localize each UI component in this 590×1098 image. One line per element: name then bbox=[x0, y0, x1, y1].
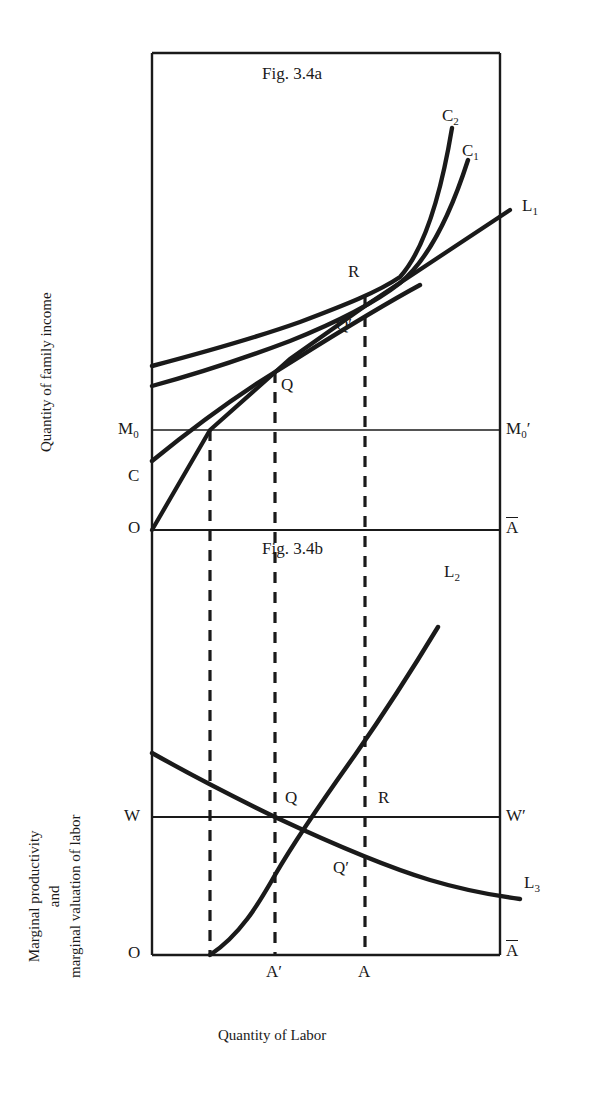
curve-label-c1-text: C bbox=[462, 141, 473, 160]
curve-c2 bbox=[152, 128, 452, 366]
y-axis-label-panel-a: Quantity of family income bbox=[38, 292, 55, 452]
point-label-q-prime-panel-a: Q′ bbox=[336, 315, 352, 335]
curve-label-l2: L2 bbox=[444, 562, 460, 583]
axis-mark-m0-prime: M0′ bbox=[506, 419, 530, 440]
axis-mark-a: A bbox=[358, 962, 370, 982]
curve-label-c1-sub: 1 bbox=[473, 150, 479, 162]
axis-mark-a-bar-panel-a: A bbox=[506, 518, 518, 538]
axis-mark-m0: M0 bbox=[118, 419, 139, 440]
axis-mark-m0-prime-tick: ′ bbox=[527, 419, 531, 438]
curve-label-l3-text: L bbox=[524, 873, 534, 892]
curve-l2 bbox=[210, 627, 438, 955]
axis-mark-a-bar-panel-b: A bbox=[506, 941, 518, 961]
axis-mark-a-prime: A′ bbox=[266, 962, 282, 982]
point-label-r-panel-b: R bbox=[378, 788, 389, 808]
axis-mark-m0-text: M bbox=[118, 419, 133, 438]
point-label-r-panel-a: R bbox=[348, 262, 359, 282]
curve-label-c1: C1 bbox=[462, 141, 479, 162]
axis-mark-m0-prime-text: M bbox=[506, 419, 521, 438]
panel-b-title: Fig. 3.4b bbox=[262, 539, 323, 559]
panel-b-frame bbox=[152, 530, 500, 955]
y-axis-label-panel-b-line3: marginal valuation of labor bbox=[65, 815, 85, 978]
curve-label-l3: L3 bbox=[524, 873, 540, 894]
axis-mark-a-bar-panel-a-text: A bbox=[506, 518, 518, 538]
axis-mark-c: C bbox=[128, 466, 139, 486]
axis-mark-o-panel-a: O bbox=[128, 518, 140, 538]
curve-label-l2-text: L bbox=[444, 562, 454, 581]
curve-label-c2-sub: 2 bbox=[453, 115, 459, 127]
y-axis-label-panel-b: Marginal productivity and marginal valua… bbox=[24, 815, 85, 978]
curve-label-l2-sub: 2 bbox=[454, 571, 460, 583]
curve-label-l3-sub: 3 bbox=[534, 882, 540, 894]
point-label-q-panel-a: Q bbox=[281, 375, 293, 395]
axis-mark-a-bar-panel-b-text: A bbox=[506, 941, 518, 961]
y-axis-label-panel-b-line2: and bbox=[44, 815, 64, 978]
curve-label-l1-text: L bbox=[522, 196, 532, 215]
axis-mark-w-prime: W′ bbox=[506, 806, 526, 826]
y-axis-label-panel-b-line1: Marginal productivity bbox=[24, 815, 44, 978]
axis-mark-m0-sub: 0 bbox=[133, 428, 139, 440]
point-label-q-prime-panel-b: Q′ bbox=[333, 858, 349, 878]
curve-label-l1-sub: 1 bbox=[532, 205, 538, 217]
point-label-q-panel-b: Q bbox=[285, 788, 297, 808]
curve-label-l1: L1 bbox=[522, 196, 538, 217]
axis-mark-w: W bbox=[124, 806, 140, 826]
curve-label-c2: C2 bbox=[442, 106, 459, 127]
x-axis-label: Quantity of Labor bbox=[218, 1027, 326, 1044]
axis-mark-o-panel-b: O bbox=[128, 943, 140, 963]
curve-label-c2-text: C bbox=[442, 106, 453, 125]
panel-a-title: Fig. 3.4a bbox=[262, 64, 322, 84]
